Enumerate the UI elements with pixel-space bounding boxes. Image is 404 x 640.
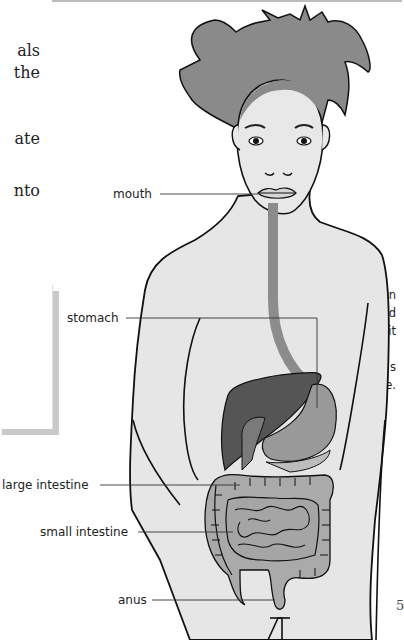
label-mouth: mouth [113,187,152,201]
label-large-intestine: large intestine [2,478,89,492]
label-stomach: stomach [67,311,119,325]
label-anus: anus [118,593,147,607]
label-small-intestine: small intestine [40,525,128,539]
page-number: 5 [396,598,404,613]
